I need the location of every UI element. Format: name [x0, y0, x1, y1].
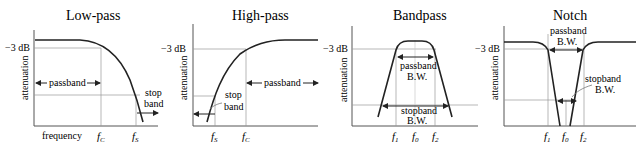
- bandpass-tick-f0: f0: [412, 130, 419, 144]
- notch-title: Notch: [553, 8, 587, 23]
- lowpass-panel: Low-pass −3 dB attenuation passband stop…: [5, 8, 163, 144]
- notch-passband-bw: B.W.: [557, 36, 577, 47]
- notch-curve: [504, 42, 636, 126]
- lowpass-ylabel: attenuation: [19, 56, 30, 100]
- bandpass-tick-f2: f2: [432, 130, 439, 144]
- bandpass-stopband-bw: B.W.: [407, 115, 427, 126]
- bandpass-3db-label: −3 dB: [323, 43, 348, 54]
- bandpass-title: Bandpass: [393, 8, 447, 23]
- highpass-panel: High-pass −3 dB attenuation passband sto…: [161, 8, 318, 144]
- highpass-tick-fc: fC: [242, 130, 250, 144]
- highpass-3db-label: −3 dB: [161, 43, 186, 54]
- notch-ylabel: attenuation: [489, 56, 500, 100]
- notch-tick-f1: f1: [544, 130, 551, 144]
- lowpass-passband-label: passband: [49, 77, 86, 88]
- highpass-tick-fs: fS: [211, 130, 218, 144]
- notch-tick-f2: f2: [580, 130, 587, 144]
- bandpass-ylabel: attenuation: [338, 58, 349, 102]
- bandpass-passband-label: passband: [400, 60, 437, 71]
- lowpass-tick-fs: fS: [132, 130, 139, 144]
- notch-stopband-label: stopband: [585, 73, 621, 84]
- lowpass-xlabel: frequency: [42, 130, 82, 141]
- notch-tick-f0: f0: [562, 130, 569, 144]
- highpass-stop-label: stop: [225, 89, 242, 100]
- bandpass-tick-f1: f1: [392, 130, 399, 144]
- lowpass-tick-fc: fC: [97, 130, 105, 144]
- notch-stopband-bw: B.W.: [595, 84, 615, 95]
- notch-3db-label: −3 dB: [475, 43, 500, 54]
- bandpass-panel: Bandpass −3 dB attenuation passband B.W.…: [323, 8, 478, 144]
- notch-passband-label: passband: [550, 25, 587, 36]
- lowpass-stop-label: stop: [145, 87, 162, 98]
- lowpass-title: Low-pass: [66, 8, 120, 23]
- highpass-passband-label: passband: [264, 77, 301, 88]
- highpass-ylabel: attenuation: [178, 56, 189, 100]
- notch-panel: Notch −3 dB attenuation passband B.W. st…: [475, 8, 636, 144]
- highpass-title: High-pass: [232, 8, 289, 23]
- bandpass-passband-bw: B.W.: [407, 71, 427, 82]
- lowpass-band-label: band: [144, 98, 163, 109]
- highpass-band-label: band: [224, 101, 243, 112]
- lowpass-3db-label: −3 dB: [5, 42, 30, 53]
